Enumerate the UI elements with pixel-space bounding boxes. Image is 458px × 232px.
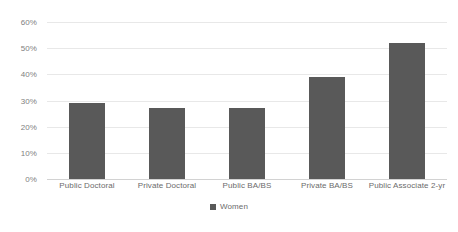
y-axis-tick-label: 20% bbox=[21, 122, 37, 131]
x-axis-category-label: Private BA/BS bbox=[287, 181, 367, 190]
y-axis: 0%10%20%30%40%50%60% bbox=[0, 22, 42, 179]
bar-slot bbox=[367, 22, 447, 179]
bar[interactable] bbox=[69, 103, 105, 179]
y-axis-tick-label: 50% bbox=[21, 44, 37, 53]
x-axis: Public DoctoralPrivate DoctoralPublic BA… bbox=[47, 181, 447, 197]
bar[interactable] bbox=[309, 77, 345, 179]
y-axis-tick-label: 40% bbox=[21, 70, 37, 79]
y-axis-tick-label: 10% bbox=[21, 148, 37, 157]
bar[interactable] bbox=[389, 43, 425, 179]
bar[interactable] bbox=[149, 108, 185, 179]
x-axis-category-label: Private Doctoral bbox=[127, 181, 207, 190]
y-axis-tick-label: 60% bbox=[21, 18, 37, 27]
x-axis-category-label: Public BA/BS bbox=[207, 181, 287, 190]
y-axis-tick-label: 0% bbox=[25, 175, 37, 184]
bar[interactable] bbox=[229, 108, 265, 179]
legend-swatch-icon bbox=[210, 204, 216, 210]
bar-slot bbox=[287, 22, 367, 179]
bar-slot bbox=[47, 22, 127, 179]
axis-baseline bbox=[47, 179, 447, 180]
bar-chart: 0%10%20%30%40%50%60% Public DoctoralPriv… bbox=[0, 0, 458, 232]
chart-legend: Women bbox=[0, 202, 458, 211]
x-axis-category-label: Public Doctoral bbox=[47, 181, 127, 190]
bar-slot bbox=[207, 22, 287, 179]
legend-label: Women bbox=[220, 202, 248, 211]
bars-layer bbox=[47, 22, 447, 179]
bar-slot bbox=[127, 22, 207, 179]
y-axis-tick-label: 30% bbox=[21, 96, 37, 105]
x-axis-category-label: Public Associate 2-yr bbox=[367, 181, 447, 190]
